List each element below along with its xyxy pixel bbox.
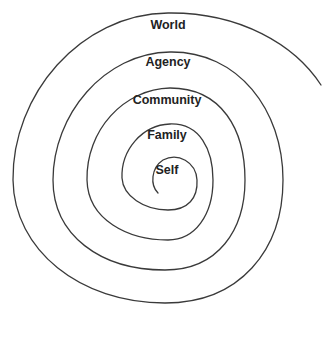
spiral-diagram: Self Family Community Agency World: [0, 0, 331, 347]
label-world: World: [150, 19, 185, 32]
label-agency: Agency: [145, 56, 190, 69]
label-family: Family: [147, 129, 187, 142]
label-community: Community: [133, 94, 202, 107]
label-self: Self: [156, 164, 179, 177]
